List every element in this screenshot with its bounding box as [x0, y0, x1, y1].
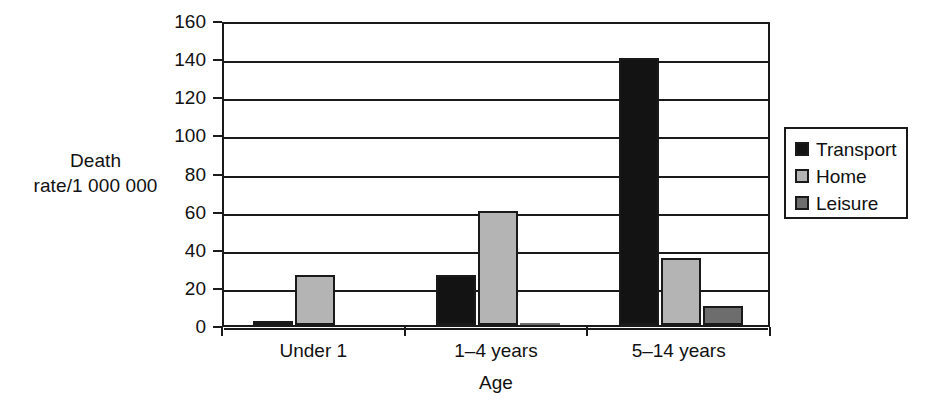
x-tick-label: Under 1 — [222, 340, 405, 362]
y-tick-80 — [213, 174, 222, 176]
bar-transport-2 — [436, 275, 476, 325]
y-tick-100 — [213, 135, 222, 137]
legend-item-leisure: Leisure — [795, 190, 906, 216]
bar-home-3 — [661, 258, 701, 325]
bar-home-2 — [478, 211, 518, 325]
y-tick-label: 0 — [150, 317, 206, 336]
legend-label: Transport — [816, 140, 897, 159]
x-tick-label: 1–4 years — [405, 340, 588, 362]
bar-chart-figure: Death rate/1 000 000 0204060801001201401… — [0, 0, 930, 407]
y-tick-label: 160 — [150, 12, 206, 31]
legend: TransportHomeLeisure — [784, 127, 908, 219]
x-tick-2 — [586, 327, 588, 336]
y-tick-label: 40 — [150, 241, 206, 260]
plot-area — [222, 22, 770, 327]
bar-home-1 — [295, 275, 335, 325]
legend-item-home: Home — [795, 163, 906, 189]
bar-transport-1 — [253, 321, 293, 325]
bars-group — [224, 24, 768, 325]
bar-leisure-2 — [520, 323, 560, 325]
y-tick-20 — [213, 288, 222, 290]
y-tick-label: 100 — [150, 126, 206, 145]
y-tick-60 — [213, 212, 222, 214]
x-tick-edge — [769, 327, 771, 336]
y-tick-label: 80 — [150, 165, 206, 184]
y-tick-160 — [213, 21, 222, 23]
bar-transport-3 — [619, 58, 659, 325]
legend-item-transport: Transport — [795, 136, 906, 162]
x-axis-title: Age — [222, 372, 770, 394]
legend-label: Leisure — [816, 194, 878, 213]
y-tick-label: 120 — [150, 88, 206, 107]
x-tick-1 — [404, 327, 406, 336]
legend-swatch-icon — [795, 142, 809, 156]
y-tick-label: 20 — [150, 279, 206, 298]
legend-label: Home — [816, 167, 867, 186]
y-tick-120 — [213, 97, 222, 99]
x-tick-edge — [221, 327, 223, 336]
legend-swatch-icon — [795, 196, 809, 210]
x-tick-label: 5–14 years — [587, 340, 770, 362]
gridline-0 — [224, 328, 768, 330]
y-tick-140 — [213, 59, 222, 61]
y-tick-label: 60 — [150, 203, 206, 222]
y-tick-40 — [213, 250, 222, 252]
bar-leisure-3 — [703, 306, 743, 325]
legend-swatch-icon — [795, 169, 809, 183]
y-tick-label: 140 — [150, 50, 206, 69]
